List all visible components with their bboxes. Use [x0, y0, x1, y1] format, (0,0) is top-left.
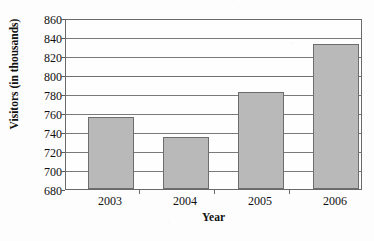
chart-title: Visitors to Sinclair's Historic Park, 20… — [0, 0, 374, 1]
plot-area — [65, 19, 362, 190]
y-tick-label-780: 780 — [22, 90, 62, 102]
y-axis-title: Visitors (in thousands) — [8, 0, 20, 154]
x-axis-title: Year — [65, 211, 362, 223]
x-tick-label-2005: 2005 — [230, 194, 290, 209]
y-tick-label-740: 740 — [22, 128, 62, 140]
y-tick-label-820: 820 — [22, 52, 62, 64]
y-tick-label-760: 760 — [22, 109, 62, 121]
y-tick-label-840: 840 — [22, 33, 62, 45]
y-tick-label-860: 860 — [22, 14, 62, 26]
y-tick-mark-680 — [61, 190, 65, 191]
bar-2004 — [163, 137, 209, 189]
gridline-840 — [66, 38, 361, 39]
x-tick-label-2006: 2006 — [305, 194, 365, 209]
bar-2003 — [88, 117, 134, 189]
x-tick-label-2004: 2004 — [155, 194, 215, 209]
bar-2005 — [238, 92, 284, 189]
y-tick-label-700: 700 — [22, 166, 62, 178]
y-tick-label-680: 680 — [22, 185, 62, 197]
bar-2006 — [313, 44, 359, 189]
y-tick-label-800: 800 — [22, 71, 62, 83]
bar-chart-figure: Visitors to Sinclair's Historic Park, 20… — [0, 0, 374, 241]
y-tick-label-720: 720 — [22, 147, 62, 159]
x-tick-label-2003: 2003 — [80, 194, 140, 209]
